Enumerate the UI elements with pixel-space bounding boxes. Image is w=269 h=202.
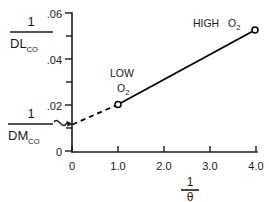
extrapolation-dashed-line	[73, 105, 119, 125]
y-axis-label-numerator: 1	[27, 14, 34, 29]
y-axis-ticks	[65, 13, 72, 151]
x-tick-label-4: 4.0	[248, 160, 263, 172]
data-point-low-o2	[115, 102, 121, 108]
intercept-label-denominator: DMCO	[8, 128, 40, 146]
regression-solid-line	[118, 30, 255, 105]
x-tick-label-2: 2.0	[156, 160, 171, 172]
x-axis-label: 1 θ	[181, 175, 199, 202]
annotation-low-o2-formula: O2	[117, 82, 129, 97]
annotation-low-o2: LOW O2	[110, 67, 134, 97]
y-axis-tick-labels: .06 .04 .02 0	[47, 8, 62, 158]
data-point-high-o2	[252, 27, 258, 33]
x-axis-tick-labels: 0 1.0 2.0 3.0 4.0	[69, 160, 264, 172]
y-tick-label-002: .02	[47, 100, 62, 112]
y-tick-label-004: .04	[47, 54, 62, 66]
annotation-high-o2-formula: O2	[228, 17, 240, 32]
intercept-label-numerator: 1	[27, 106, 34, 121]
intercept-pointer-squiggle	[54, 120, 72, 126]
x-axis-ticks	[72, 146, 256, 152]
chart-figure: 1 DLCO 1 DMCO	[0, 0, 269, 202]
roughton-forster-plot: 1 DLCO 1 DMCO	[0, 0, 269, 202]
y-axis-label-denominator: DLCO	[10, 36, 38, 54]
y-tick-label-0: 0	[56, 146, 62, 158]
y-tick-label-006: .06	[47, 8, 62, 20]
x-axis-label-denominator: θ	[187, 190, 194, 202]
x-tick-label-3: 3.0	[202, 160, 217, 172]
x-tick-label-0: 0	[69, 160, 75, 172]
annotation-high-o2: HIGH O2	[193, 17, 240, 32]
annotation-high-o2-text: HIGH	[193, 17, 219, 29]
axes	[72, 13, 257, 152]
x-axis-label-numerator: 1	[187, 175, 194, 189]
annotation-low-o2-text: LOW	[110, 67, 134, 79]
x-tick-label-1: 1.0	[110, 160, 125, 172]
